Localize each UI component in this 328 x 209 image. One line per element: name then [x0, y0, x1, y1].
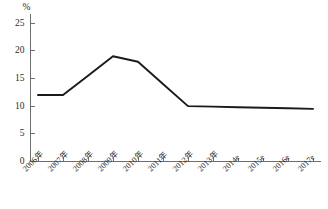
y-tick-label: 20	[5, 45, 25, 55]
y-tick-label: 10	[5, 101, 25, 111]
y-tick-label: 15	[5, 73, 25, 83]
data-series-line	[38, 56, 313, 109]
y-tick-label: 5	[5, 128, 25, 138]
y-tick-label: 0	[5, 156, 25, 166]
y-axis-ticks	[31, 23, 35, 162]
y-axis-unit-label: %	[23, 2, 31, 12]
y-tick-label: 25	[5, 18, 25, 28]
chart-plot-area	[0, 0, 328, 209]
axes-group	[31, 14, 322, 162]
line-chart: % 0510152025 2006年2007年2008年2009年2010年20…	[0, 0, 328, 209]
